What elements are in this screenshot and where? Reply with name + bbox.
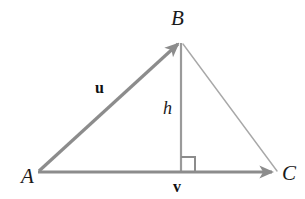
- vector-label-u: u: [95, 80, 104, 96]
- segment-bc: [183, 44, 277, 171]
- vector-triangle-diagram: A B C u v h: [0, 0, 305, 199]
- geometry-canvas: [0, 0, 305, 199]
- vertex-label-a: A: [21, 166, 34, 187]
- vertex-label-b: B: [171, 8, 184, 29]
- height-label-h: h: [163, 99, 172, 117]
- vector-u-arrow: [39, 44, 178, 171]
- vector-label-v: v: [173, 179, 181, 195]
- vertex-label-c: C: [282, 163, 296, 184]
- right-angle-marker: [181, 157, 195, 171]
